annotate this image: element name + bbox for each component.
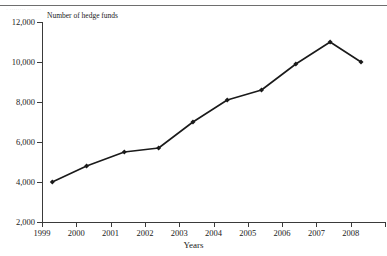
y-axis-tick-label: 10,000	[1, 58, 35, 67]
x-axis-tick-label: 2008	[331, 229, 371, 238]
x-axis-tick	[111, 222, 112, 227]
y-axis-line	[42, 22, 43, 223]
line-chart-plot-area: 2,0004,0006,0008,00010,00012,000 1999200…	[0, 0, 387, 256]
data-point-marker	[156, 146, 161, 151]
series-line	[52, 42, 361, 182]
data-point-marker	[259, 88, 264, 93]
data-point-marker	[358, 60, 363, 65]
x-axis-tick	[316, 222, 317, 227]
y-axis-tick	[37, 62, 42, 63]
chart-figure: ·· ·· · ········ ······· 2,0004,0006,000…	[0, 0, 387, 256]
x-axis-tick	[76, 222, 77, 227]
data-point-marker	[225, 98, 230, 103]
data-series-svg	[0, 0, 387, 256]
data-point-marker	[293, 62, 298, 67]
x-axis-tick	[282, 222, 283, 227]
data-point-marker	[122, 150, 127, 155]
y-axis-tick	[37, 142, 42, 143]
data-point-marker	[84, 164, 89, 169]
data-point-marker	[328, 40, 333, 45]
y-axis-tick-label: 4,000	[1, 178, 35, 187]
y-axis-tick-label: 12,000	[1, 18, 35, 27]
y-axis-tick-label: 6,000	[1, 138, 35, 147]
x-axis-tick	[248, 222, 249, 227]
x-axis-tick	[42, 222, 43, 227]
y-axis-tick	[37, 22, 42, 23]
x-axis-tick	[385, 222, 386, 227]
x-axis-tick	[214, 222, 215, 227]
data-point-marker	[190, 120, 195, 125]
y-axis-tick-label: 8,000	[1, 98, 35, 107]
y-axis-title: Number of hedge funds	[47, 12, 118, 20]
y-axis-tick	[37, 182, 42, 183]
x-axis-tick	[179, 222, 180, 227]
y-axis-tick	[37, 102, 42, 103]
x-axis-tick	[351, 222, 352, 227]
x-axis-title: Years	[0, 240, 387, 250]
y-axis-tick-label: 2,000	[1, 218, 35, 227]
data-point-marker	[50, 180, 55, 185]
x-axis-tick	[145, 222, 146, 227]
